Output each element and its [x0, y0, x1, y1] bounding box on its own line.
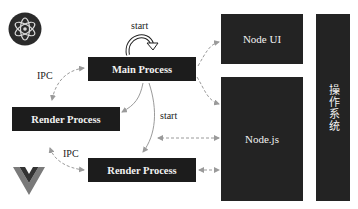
- electron-logo-icon: [8, 12, 42, 46]
- main-to-nodeui-arrow: [198, 42, 219, 66]
- ipc-arrow-top: [52, 68, 84, 100]
- ipc-label-top: IPC: [37, 70, 53, 81]
- main-to-nodejs-arrow: [197, 77, 219, 104]
- render-process-left-box: Render Process: [12, 107, 120, 131]
- start-label-middle: start: [160, 110, 177, 121]
- start-label-top: start: [131, 20, 148, 31]
- main-to-render-bottom-arrow: [143, 83, 155, 152]
- start-loop-arrow: [128, 36, 158, 55]
- render-process-bottom-box: Render Process: [88, 158, 196, 182]
- nodejs-box: Node.js: [221, 77, 303, 201]
- vue-logo-icon: [13, 167, 45, 197]
- main-to-render-left-arrow: [122, 83, 143, 112]
- node-ui-box: Node UI: [221, 14, 303, 64]
- os-box: 操作系统: [316, 14, 350, 201]
- main-process-box: Main Process: [88, 57, 196, 81]
- ipc-label-bottom: IPC: [63, 148, 79, 159]
